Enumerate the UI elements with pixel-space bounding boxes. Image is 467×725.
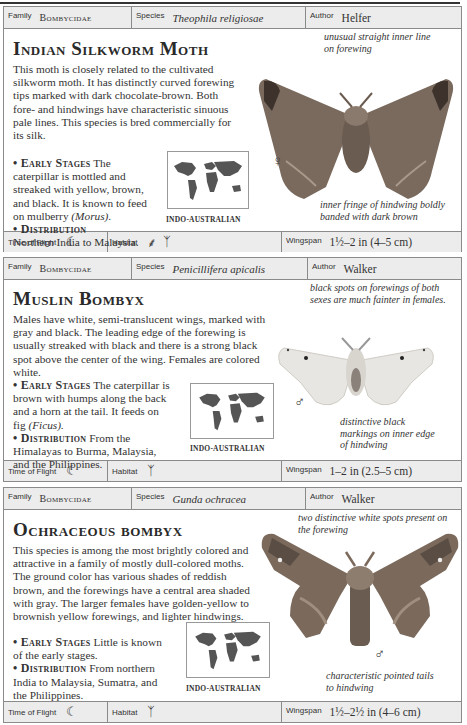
family-label: Family [8,262,32,271]
species-cell: Species Theophila religiosae [132,7,306,28]
wingspan-value: 1½–2½ in (4–6 cm) [330,706,421,718]
time-of-flight-label: Time of Flight [8,708,56,717]
family-label: Family [8,492,32,501]
author-label: Author [310,11,334,20]
author-value: Helfer [342,12,371,24]
early-stages: • Early Stages The caterpillar is mottle… [13,157,158,249]
habitat-label: Habitat [112,708,137,717]
author-value: Walker [342,493,375,505]
world-map-icon [168,152,248,208]
author-label: Author [312,262,336,271]
map-region-label: INDO-AUSTRALIAN [190,444,265,453]
species-label: Species [136,11,164,20]
annotation-bottom: characteristic pointed tails to hindwing [326,670,436,693]
early-stages-label: • Early Stages [13,635,91,649]
author-cell: Author Helfer [306,7,461,28]
time-of-flight-cell: Time of Flight ☾ [4,702,108,722]
species-value: Gunda ochracea [172,493,246,505]
annotation-top: black spots on forewings of both sexes a… [310,282,460,305]
species-title: Muslin Bombyx [13,288,144,310]
moon-icon: ☾ [66,704,78,720]
family-cell: Family Bombycidae [4,488,132,509]
description: Males have white, semi-translucent wings… [13,313,271,379]
early-stages-label: • Early Stages [13,156,91,170]
world-map [186,622,270,678]
annotation-bottom: inner fringe of hindwing boldly banded w… [320,199,460,222]
entry-body: Indian Silkworm Moth This moth is closel… [4,29,461,231]
world-map-icon [191,384,273,438]
distribution-label: • Distribution [13,661,86,675]
annotation-top: two distinctive white spots present on t… [298,512,448,535]
author-cell: Author Walker [308,258,461,279]
wingspan-cell: Wingspan 1½–2 in (4–5 cm) [282,232,461,252]
distribution-label: • Distribution [13,222,86,236]
early-stages-italic: (Ficus). [28,419,63,431]
entry-footer: Time of Flight ☾ Habitat ᛉ Wingspan 1½–2… [4,701,461,722]
author-cell: Author Walker [306,488,461,509]
habitat-label: Habitat [112,467,137,476]
wingspan-cell: Wingspan 1–2 in (2.5–5 cm) [282,461,461,481]
habitat-label: Habitat [112,238,137,247]
species-value: Penicillifera apicalis [172,263,265,275]
world-map [190,383,274,439]
time-of-flight-label: Time of Flight [8,238,56,247]
entry-body: Muslin Bombyx Males have white, semi-tra… [4,280,461,460]
entry-ochraceous-bombyx: Family Bombycidae Species Gunda ochracea… [3,487,462,723]
species-cell: Species Gunda ochracea [132,488,306,509]
family-value: Bombycidae [40,263,92,274]
description: This moth is closely related to the cult… [13,63,241,142]
entry-header: Family Bombycidae Species Theophila reli… [4,7,461,29]
author-label: Author [310,492,334,501]
family-cell: Family Bombycidae [4,258,132,279]
species-value: Theophila religiosae [172,12,263,24]
family-cell: Family Bombycidae [4,7,132,28]
author-value: Walker [344,263,377,275]
annotation-top: unusual straight inner line on forewing [324,31,434,54]
wingspan-value: 1–2 in (2.5–5 cm) [330,465,412,477]
wingspan-label: Wingspan [286,706,322,715]
distribution-label: • Distribution [13,431,86,445]
wingspan-value: 1½–2 in (4–5 cm) [330,236,412,248]
species-cell: Species Penicillifera apicalis [132,258,308,279]
description-text: This species is among the most brightly … [13,544,250,622]
entry-muslin-bombyx: Family Bombycidae Species Penicillifera … [3,257,462,482]
species-title: Ochraceous bombyx [13,519,183,541]
time-of-flight-label: Time of Flight [8,467,56,476]
species-title: Indian Silkworm Moth [13,38,209,60]
entry-header: Family Bombycidae Species Gunda ochracea… [4,488,461,510]
description-text: Males have white, semi-translucent wings… [13,313,265,378]
family-label: Family [8,11,32,20]
palm-tree-icon: ᛉ [147,704,155,720]
entry-body: Ochraceous bombyx This species is among … [4,510,461,701]
top-rule [0,2,460,4]
map-region-label: INDO-AUSTRALIAN [186,684,261,693]
early-stages: • Early Stages The caterpillar is brown … [13,379,171,471]
sex-symbol-male: ♂ [294,394,305,411]
sex-symbol-female: ♀ [272,153,283,170]
species-label: Species [136,262,164,271]
family-value: Bombycidae [40,493,92,504]
habitat-cell: Habitat ᛉ [108,702,282,722]
moth-image-ochraceous-bombyx [260,526,460,666]
description: This species is among the most brightly … [13,544,258,623]
sex-symbol-male: ♂ [374,646,385,663]
early-stages-label: • Early Stages [13,378,91,392]
wingspan-cell: Wingspan 1½–2½ in (4–6 cm) [282,702,461,722]
wingspan-label: Wingspan [286,465,322,474]
palm-tree-icon: ᛉ [163,234,171,250]
entry-indian-silkworm-moth: Family Bombycidae Species Theophila reli… [3,6,462,252]
annotation-bottom: distinctive black markings on inner edge… [340,416,440,451]
world-map [167,151,249,209]
species-label: Species [136,492,164,501]
world-map-icon [187,623,269,677]
entry-header: Family Bombycidae Species Penicillifera … [4,258,461,280]
wingspan-label: Wingspan [286,236,322,245]
family-value: Bombycidae [40,12,92,23]
early-stages: • Early Stages Little is known of the ea… [13,636,163,702]
map-region-label: INDO-AUSTRALIAN [166,215,241,224]
early-stages-italic: (Morus). [71,210,111,222]
description-text: This moth is closely related to the cult… [13,63,234,141]
moth-image-indian-silkworm [256,61,456,211]
